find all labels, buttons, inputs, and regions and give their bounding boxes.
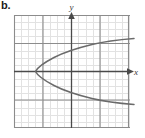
y-axis-label: y — [69, 2, 74, 12]
x-axis-arrow-icon — [127, 68, 134, 75]
coordinate-plane-graph: x y — [0, 0, 145, 138]
figure-panel: b. — [0, 0, 145, 138]
x-axis-label: x — [133, 67, 138, 77]
